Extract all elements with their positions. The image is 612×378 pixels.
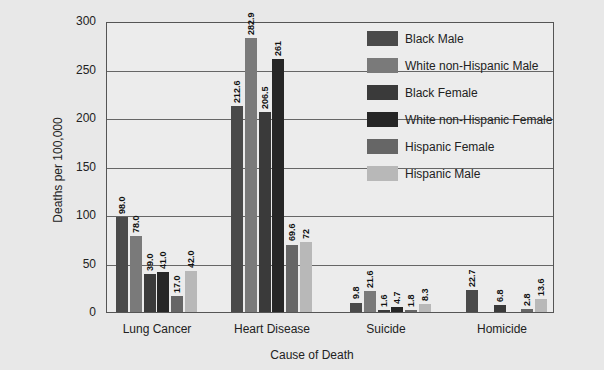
legend-label: Black Male	[405, 32, 464, 46]
bar	[157, 272, 169, 312]
bar-value-label: 17.0	[172, 275, 182, 293]
bar-value-label: 6.8	[495, 290, 505, 303]
plot-area: 98.0212.69.822.778.0282.921.639.0206.51.…	[106, 22, 554, 313]
gridline	[107, 265, 553, 266]
bar-value-label: 212.6	[232, 80, 242, 103]
bar	[185, 271, 197, 312]
bar	[466, 290, 478, 312]
legend-swatch	[367, 166, 398, 181]
bar	[521, 309, 533, 312]
bar	[245, 38, 257, 312]
bar-value-label: 261	[273, 41, 283, 56]
bar-value-label: 22.7	[467, 269, 477, 287]
bar-value-label: 69.6	[287, 224, 297, 242]
bar	[350, 303, 362, 313]
bar	[494, 305, 506, 312]
legend-label: White non-Hispanic Male	[405, 59, 538, 73]
bar-value-label: 39.0	[145, 254, 155, 272]
bar	[171, 296, 183, 312]
bar	[535, 299, 547, 312]
bar-value-label: 206.5	[260, 86, 270, 109]
bar	[286, 245, 298, 313]
x-category-label: Homicide	[442, 322, 562, 336]
bar-value-label: 8.3	[420, 288, 430, 301]
y-tick-label: 200	[56, 111, 96, 125]
bar	[231, 106, 243, 312]
legend-label: White non-Hispanic Female	[405, 113, 552, 127]
legend-swatch	[367, 139, 398, 154]
bar	[259, 112, 271, 312]
bar-value-label: 1.6	[379, 295, 389, 308]
x-axis-label: Cause of Death	[0, 348, 604, 362]
bar	[144, 274, 156, 312]
bar	[391, 307, 403, 312]
gridline	[107, 168, 553, 169]
legend-swatch	[367, 112, 398, 127]
bar-value-label: 9.8	[351, 287, 361, 300]
legend-label: Hispanic Male	[405, 167, 480, 181]
bar-value-label: 41.0	[158, 252, 168, 270]
bar-value-label: 78.0	[131, 216, 141, 234]
legend-swatch	[367, 85, 398, 100]
legend-swatch	[367, 58, 398, 73]
bar-value-label: 42.0	[186, 251, 196, 269]
y-tick-label: 0	[56, 305, 96, 319]
bar	[272, 59, 284, 312]
legend-label: Black Female	[405, 86, 478, 100]
bar-value-label: 1.8	[406, 295, 416, 308]
y-tick-label: 50	[56, 257, 96, 271]
bar-value-label: 98.0	[117, 196, 127, 214]
bar-value-label: 2.8	[522, 294, 532, 307]
x-category-label: Lung Cancer	[97, 322, 217, 336]
bar-value-label: 282.9	[246, 12, 256, 35]
x-category-label: Heart Disease	[212, 322, 332, 336]
y-tick-label: 150	[56, 160, 96, 174]
legend-label: Hispanic Female	[405, 140, 494, 154]
y-tick-label: 300	[56, 14, 96, 28]
bar	[364, 291, 376, 312]
bar-value-label: 4.7	[392, 292, 402, 305]
bar-value-label: 21.6	[365, 271, 375, 289]
y-tick-label: 100	[56, 208, 96, 222]
bar-value-label: 72	[301, 229, 311, 239]
legend-swatch	[367, 31, 398, 46]
bar-value-label: 13.6	[536, 278, 546, 296]
x-category-label: Suicide	[326, 322, 446, 336]
bar	[378, 310, 390, 312]
bar	[130, 236, 142, 312]
y-tick-label: 250	[56, 63, 96, 77]
bar	[419, 304, 431, 312]
gridline	[107, 216, 553, 217]
bar	[405, 310, 417, 312]
bar	[116, 217, 128, 312]
bar	[300, 242, 312, 312]
